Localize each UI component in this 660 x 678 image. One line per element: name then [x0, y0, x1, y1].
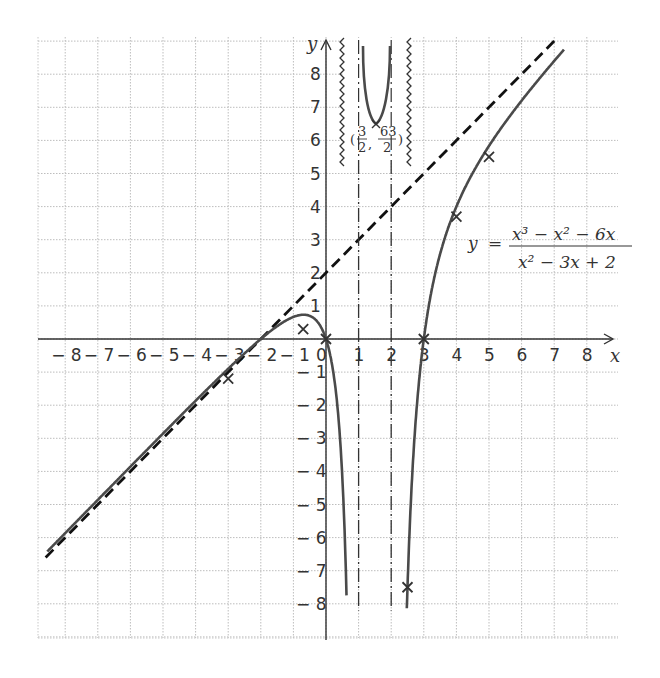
x-tick-label: − 4 [182, 345, 212, 365]
y-tick-label: − 4 [296, 461, 326, 481]
annotation-y-den: 2 [383, 140, 391, 155]
y-tick-label: 5 [310, 164, 321, 184]
function-curve [47, 50, 564, 609]
x-tick-label: − 6 [116, 345, 146, 365]
y-axis-label: y [306, 33, 318, 54]
x-tick-label: 5 [484, 345, 495, 365]
svg-text:=: = [488, 233, 502, 253]
annotation-y-num: 63 [380, 124, 397, 139]
annotation-x-den: 2 [358, 140, 366, 155]
x-tick-label: − 8 [51, 345, 81, 365]
y-tick-label: − 8 [296, 594, 326, 614]
y-tick-label: 2 [310, 263, 321, 283]
y-tick-label: − 2 [296, 395, 326, 415]
annotation-comma: , [368, 136, 372, 151]
annotation-paren-close: ) [398, 132, 403, 147]
svg-text:x² − 3x + 2: x² − 3x + 2 [518, 252, 616, 272]
y-tick-label: 1 [310, 296, 321, 316]
y-tick-label: − 1 [296, 362, 326, 382]
x-tick-label: 4 [451, 345, 462, 365]
y-tick-label: − 5 [296, 495, 326, 515]
local-min-inset: (32,632) [340, 38, 412, 166]
svg-text:y: y [467, 233, 478, 253]
svg-text:x³ − x² − 6x: x³ − x² − 6x [512, 224, 616, 244]
annotation-paren-open: ( [350, 132, 355, 147]
equation-label: y = x³ − x² − 6x x² − 3x + 2 [467, 224, 632, 272]
y-tick-label: 8 [310, 64, 321, 84]
y-tick-label: 3 [310, 230, 321, 250]
y-tick-label: 4 [310, 197, 321, 217]
y-tick-label: 7 [310, 97, 321, 117]
x-tick-label: − 7 [84, 345, 114, 365]
x-tick-label: 7 [549, 345, 560, 365]
rational-function-graph: − 8− 7− 6− 5− 4− 3− 2− 10123456788765432… [0, 0, 660, 678]
curve-branch-right [407, 50, 564, 609]
x-tick-label: 6 [517, 345, 528, 365]
y-tick-label: − 6 [296, 528, 326, 548]
annotation-x-num: 3 [358, 124, 366, 139]
x-tick-label: 8 [582, 345, 593, 365]
y-tick-label: − 3 [296, 428, 326, 448]
point-marker-icon [298, 324, 308, 334]
wavy-break-left [340, 38, 344, 166]
y-tick-label: − 7 [296, 561, 326, 581]
x-axis-label: x [610, 345, 620, 366]
y-tick-label: 6 [310, 130, 321, 150]
x-tick-label: − 5 [149, 345, 179, 365]
